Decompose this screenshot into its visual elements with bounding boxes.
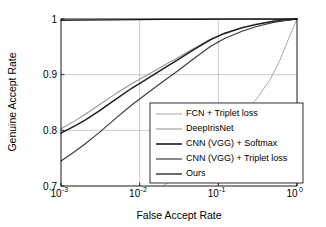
y-tick-label: 0.7 (43, 181, 57, 192)
roc-chart-figure: 10-310-210-1100 0.70.80.91 False Accept … (0, 0, 326, 227)
x-axis-title: False Accept Rate (136, 209, 221, 221)
x-tick-base: 10 (286, 188, 298, 199)
x-tick-exponent: -1 (219, 186, 225, 193)
y-axis-title: Genuine Accept Rate (6, 52, 18, 151)
legend-entry-label: DeepIrisNet (186, 123, 234, 133)
legend: FCN + Triplet lossDeepIrisNetCNN (VGG) +… (150, 103, 303, 183)
x-tick-base: 10 (208, 188, 220, 199)
y-tick-label: 1 (51, 14, 57, 25)
legend-entry-label: Ours (186, 168, 206, 178)
y-tick-label: 0.9 (43, 69, 57, 80)
x-tick-label: 10-2 (129, 186, 147, 199)
legend-entry-label: CNN (VGG) + Softmax (186, 138, 278, 148)
legend-entry-label: FCN + Triplet loss (186, 108, 258, 118)
x-axis-tick-labels: 10-310-210-1100 (50, 183, 303, 200)
x-tick-exponent: -2 (141, 186, 147, 193)
x-tick-exponent: -3 (62, 186, 68, 193)
y-tick-label: 0.8 (43, 125, 57, 136)
legend-entry-label: CNN (VGG) + Triplet loss (186, 153, 288, 163)
plot-canvas: 10-310-210-1100 0.70.80.91 False Accept … (0, 0, 326, 227)
x-tick-label: 100 (286, 186, 303, 199)
x-tick-exponent: 0 (299, 186, 303, 193)
x-tick-label: 10-1 (208, 186, 226, 199)
x-tick-base: 10 (129, 188, 141, 199)
